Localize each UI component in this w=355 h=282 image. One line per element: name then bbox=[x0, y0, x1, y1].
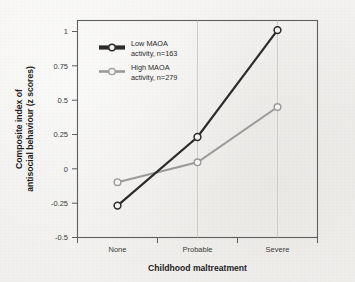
y-axis-ticks bbox=[72, 32, 78, 238]
x-axis-title: Childhood maltreatment bbox=[148, 263, 247, 273]
legend-entry-high-maoa: High MAOA activity, n=279 bbox=[99, 63, 177, 82]
legend-marker-low-maoa bbox=[109, 44, 115, 50]
y-tick-label-neg025: -0.25 bbox=[51, 199, 68, 208]
line-chart: 1 0.75 0.5 0.25 0 -0.25 -0.5 None Probab… bbox=[0, 0, 355, 282]
y-tick-label-075: 0.75 bbox=[53, 62, 68, 71]
legend-label-low-maoa-line1: Low MAOA bbox=[131, 39, 168, 48]
legend-label-high-maoa-line1: High MAOA bbox=[131, 63, 170, 72]
figure-canvas: 1 0.75 0.5 0.25 0 -0.25 -0.5 None Probab… bbox=[0, 0, 355, 282]
y-tick-label-05: 0.5 bbox=[58, 96, 68, 105]
y-axis-title: Composite index of antisocial behaviour … bbox=[14, 66, 35, 192]
legend-entry-low-maoa: Low MAOA activity, n=163 bbox=[99, 39, 177, 58]
y-axis-title-line2: antisocial behaviour (z scores) bbox=[25, 66, 35, 192]
legend-label-high-maoa-line2: activity, n=279 bbox=[131, 73, 177, 82]
y-axis-title-line1: Composite index of bbox=[14, 89, 24, 169]
y-tick-label-1: 1 bbox=[64, 27, 68, 36]
y-tick-label-0: 0 bbox=[64, 165, 68, 174]
x-tick-label-none: None bbox=[109, 245, 127, 254]
legend-label-low-maoa-line2: activity, n=163 bbox=[131, 49, 177, 58]
data-point-low-probable bbox=[194, 134, 201, 141]
y-tick-label-025: 0.25 bbox=[53, 130, 68, 139]
data-point-high-severe bbox=[274, 104, 281, 111]
data-point-high-probable bbox=[194, 159, 201, 166]
x-tick-label-probable: Probable bbox=[182, 245, 212, 254]
x-axis-ticks bbox=[78, 238, 318, 244]
data-point-low-severe bbox=[274, 27, 281, 34]
data-point-high-none bbox=[114, 179, 121, 186]
legend: Low MAOA activity, n=163 High MAOA activ… bbox=[99, 39, 177, 82]
legend-marker-high-maoa bbox=[109, 68, 115, 74]
data-point-low-none bbox=[114, 202, 121, 209]
y-tick-label-neg05: -0.5 bbox=[55, 233, 68, 242]
x-tick-label-severe: Severe bbox=[266, 245, 290, 254]
